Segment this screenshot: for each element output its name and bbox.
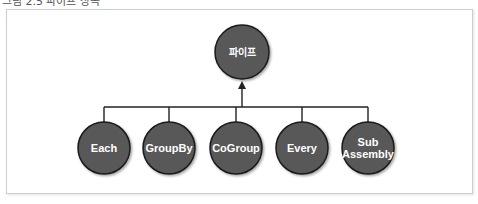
node-label: Assembly — [342, 148, 395, 160]
node-label: Every — [287, 142, 318, 154]
node-label: Each — [91, 142, 118, 154]
connector-lines — [104, 81, 368, 122]
inheritance-diagram: 파이프EachGroupByCoGroupEverySubAssembly — [0, 0, 478, 204]
node-label: Sub — [358, 136, 379, 148]
node-cogroup: CoGroup — [210, 122, 262, 174]
node-sub-assembly: SubAssembly — [342, 122, 395, 174]
node-label: CoGroup — [212, 142, 260, 154]
arrowhead-icon — [238, 81, 246, 89]
node-label: 파이프 — [229, 46, 256, 58]
node-every: Every — [276, 122, 328, 174]
node-each: Each — [78, 122, 130, 174]
node-root: 파이프 — [215, 25, 269, 79]
node-label: GroupBy — [145, 142, 193, 154]
node-groupby: GroupBy — [143, 122, 195, 174]
node-group: 파이프EachGroupByCoGroupEverySubAssembly — [78, 25, 395, 174]
